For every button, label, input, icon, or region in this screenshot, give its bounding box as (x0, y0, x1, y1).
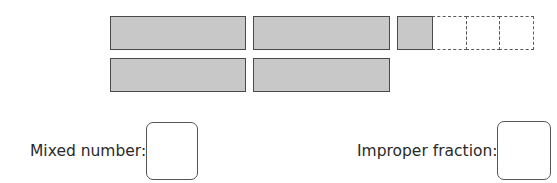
whole-bar-1 (110, 16, 246, 50)
whole-bar-4 (253, 58, 390, 92)
whole-bar-2 (253, 16, 390, 50)
partial-bar-shaded-part (397, 16, 433, 50)
whole-bar-3 (110, 58, 246, 92)
partial-bar-empty-part-2 (466, 16, 500, 50)
improper-fraction-label: Improper fraction: (357, 144, 497, 160)
partial-bar-empty-part-3 (499, 16, 534, 50)
mixed-number-answer-box[interactable] (146, 122, 198, 180)
mixed-number-label: Mixed number: (30, 144, 146, 160)
partial-bar-empty-part-1 (432, 16, 467, 50)
improper-fraction-answer-box[interactable] (497, 121, 551, 180)
